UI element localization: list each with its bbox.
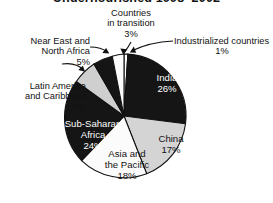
slice-label-asia-pacific: Asia and the Pacific 18% bbox=[94, 148, 160, 181]
slice-label-percent: 24% bbox=[83, 140, 102, 151]
callout-percent: 6% bbox=[2, 102, 86, 112]
callout-label-line1: Countries bbox=[111, 8, 151, 18]
slice-label-percent: 17% bbox=[161, 144, 180, 155]
slice-label-india: India 26% bbox=[141, 72, 193, 94]
slice-label-text2: Africa bbox=[81, 129, 106, 140]
callout-label-line2: in transition bbox=[107, 18, 155, 28]
callout-label-line2: North Africa bbox=[41, 46, 90, 56]
slice-label-text: China bbox=[158, 133, 183, 144]
callout-countries-in-transition: Countries in transition 3% bbox=[96, 8, 166, 39]
callout-percent: 5% bbox=[12, 57, 90, 67]
slice-label-percent: 18% bbox=[117, 170, 136, 181]
callout-label-line1: Near East and bbox=[31, 36, 90, 46]
callout-percent: 3% bbox=[96, 29, 166, 39]
callout-percent: 1% bbox=[174, 46, 270, 56]
slice-label-sub-saharan-africa: Sub-Saharan Africa 24% bbox=[56, 118, 130, 151]
callout-latin-america-caribbean: Latin America and Caribbean 6% bbox=[2, 81, 86, 112]
callout-label-line2: and Caribbean bbox=[25, 91, 86, 101]
slice-label-text: Sub-Saharan bbox=[65, 118, 122, 129]
callout-near-east-north-africa: Near East and North Africa 5% bbox=[12, 36, 90, 67]
pie-chart-figure: Undernourished 1998–2002 Countries in tr… bbox=[0, 0, 273, 203]
callout-industrialized-countries: Industrialized countries 1% bbox=[174, 36, 270, 57]
callout-label-line1: Industrialized countries bbox=[174, 36, 269, 46]
slice-label-text: India bbox=[157, 72, 178, 83]
callout-label-line1: Latin America bbox=[30, 81, 86, 91]
slice-label-percent: 26% bbox=[157, 83, 176, 94]
slice-label-text2: the Pacific bbox=[105, 159, 149, 170]
leader-line-industrialized bbox=[132, 41, 174, 51]
